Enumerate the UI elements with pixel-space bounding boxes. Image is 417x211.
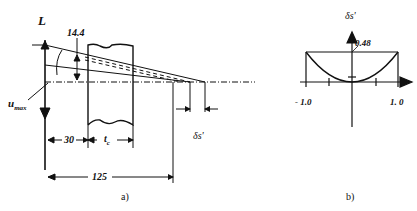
x-max-label: 1. 0 [390, 97, 404, 107]
shift-label: δs' [193, 130, 204, 141]
caption-b: b) [346, 191, 354, 202]
dim-thickness-label: tc [104, 133, 110, 147]
arrow-down-icon [40, 108, 50, 119]
diagram-canvas [0, 0, 417, 211]
dim-30-label: 30 [64, 134, 74, 145]
x-axis-arrow-icon [400, 77, 412, 87]
caption-a: a) [121, 191, 129, 202]
load-label: L [38, 13, 46, 29]
umax-label: umax [8, 97, 27, 112]
y-axis-label: δs' [345, 10, 356, 21]
peak-value-label: 0.48 [355, 38, 371, 48]
dim-125-label: 125 [92, 171, 107, 182]
figure-a [28, 38, 255, 183]
x-min-label: - 1.0 [295, 97, 312, 107]
offset-label: 14.4 [67, 27, 85, 38]
